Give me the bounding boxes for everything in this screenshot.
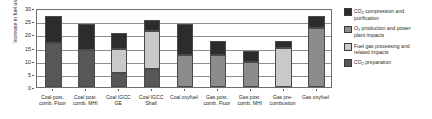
bar-segment: [275, 41, 291, 48]
legend-swatch: [344, 59, 352, 67]
plot-area: [36, 9, 332, 88]
y-axis-tick: [32, 22, 34, 23]
y-axis-tick-label: 15: [25, 46, 31, 52]
x-axis-tick: [316, 89, 317, 91]
bar-segment: [243, 62, 259, 87]
bar-column: [177, 8, 193, 87]
bar-segment: [111, 33, 127, 49]
y-axis-tick: [32, 35, 34, 36]
bar-segment: [144, 31, 160, 69]
x-axis-tick: [217, 89, 218, 91]
bar-segment: [243, 51, 259, 62]
bar-column: [275, 8, 291, 87]
bar-segment: [275, 48, 291, 87]
bar-series-container: [37, 10, 331, 87]
bar-column: [45, 8, 61, 87]
bar-segment: [177, 55, 193, 87]
bar-segment: [45, 43, 61, 87]
bar-column: [78, 8, 94, 87]
y-axis-tick-label: 10: [25, 59, 31, 65]
y-axis-tick-label: 0: [28, 85, 31, 91]
y-axis-tick-label: 30: [25, 6, 31, 12]
x-axis-tick: [184, 89, 185, 91]
legend-swatch: [344, 8, 352, 16]
bar-column: [243, 8, 259, 87]
x-axis-tick-label: Gas oxyfuel: [296, 94, 334, 100]
x-axis-tick: [85, 89, 86, 91]
legend-label: CO2 compression andpurification: [354, 8, 404, 21]
bar-segment: [210, 55, 226, 87]
y-axis-tick-label: 5: [28, 72, 31, 78]
bar-column: [144, 8, 160, 87]
bar-column: [111, 8, 127, 87]
bar-column: [210, 8, 226, 87]
bar-segment: [78, 24, 94, 50]
legend-item[interactable]: CO2 preparation: [344, 59, 432, 67]
bar-segment: [308, 16, 324, 28]
y-axis-tick-label: 25: [25, 19, 31, 25]
bar-segment: [45, 16, 61, 43]
bar-column: [308, 8, 324, 87]
y-axis-tick: [32, 49, 34, 50]
x-axis-tick: [151, 89, 152, 91]
bar-segment: [111, 49, 127, 73]
bar-segment: [78, 50, 94, 87]
y-axis-tick-label: 20: [25, 32, 31, 38]
bar-segment: [144, 20, 160, 31]
x-axis-tick: [283, 89, 284, 91]
legend-label: Fuel gas processing andrelated impacts: [354, 43, 410, 55]
legend-swatch: [344, 26, 352, 34]
y-axis-tick: [32, 88, 34, 89]
bar-segment: [111, 73, 127, 87]
legend-swatch: [344, 43, 352, 51]
bar-segment: [144, 69, 160, 87]
bar-segment: [210, 41, 226, 55]
bar-segment: [308, 28, 324, 87]
y-axis-tick: [32, 62, 34, 63]
x-axis-labels: Coal post. comb. FluorCoal post. comb. M…: [36, 90, 332, 117]
bar-segment: [177, 24, 193, 56]
chart-figure: Increase in fuel use (%) 051015202530 Co…: [0, 0, 432, 119]
x-axis-tick: [250, 89, 251, 91]
legend-label: O2 production and powerplant impacts: [354, 25, 411, 38]
y-axis-tick: [32, 75, 34, 76]
x-axis-tick: [118, 89, 119, 91]
y-axis-tick: [32, 9, 34, 10]
legend: CO2 compression andpurificationO2 produc…: [344, 8, 432, 71]
legend-item[interactable]: Fuel gas processing andrelated impacts: [344, 43, 432, 55]
legend-item[interactable]: CO2 compression andpurification: [344, 8, 432, 21]
y-axis-labels: 051015202530: [14, 9, 34, 88]
legend-label: CO2 preparation: [354, 59, 391, 66]
x-axis-tick: [52, 89, 53, 91]
legend-item[interactable]: O2 production and powerplant impacts: [344, 25, 432, 38]
